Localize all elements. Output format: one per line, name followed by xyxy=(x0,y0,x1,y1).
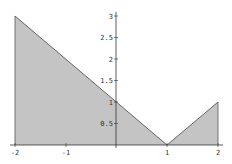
y-tick-label: 1.5 xyxy=(100,77,113,85)
x-tick-label: -2 xyxy=(11,149,19,157)
y-tick-label: 2.5 xyxy=(100,34,113,42)
area-plot: -2 -1 1 2 0.5 1 1.5 2 2.5 3 xyxy=(0,0,232,164)
y-tick-label: 2 xyxy=(109,56,113,64)
y-tick-label: 3 xyxy=(109,13,113,21)
x-tick-label: -1 xyxy=(62,149,70,157)
y-tick-label: 0.5 xyxy=(100,120,113,128)
x-tick-label: 2 xyxy=(216,149,220,157)
y-tick-label: 1 xyxy=(109,99,113,107)
x-tick-label: 1 xyxy=(165,149,169,157)
